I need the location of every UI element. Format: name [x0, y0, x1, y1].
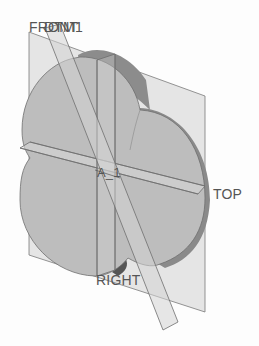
axis-a1-label[interactable]: A_1 — [97, 166, 121, 179]
top-datum-label[interactable]: TOP — [213, 187, 242, 201]
right-datum-label[interactable]: RIGHT — [96, 273, 141, 287]
cad-3d-viewport[interactable]: FRONT DTM1 A_1 TOP RIGHT — [0, 0, 259, 346]
dtm1-datum-label[interactable]: DTM1 — [44, 20, 83, 34]
model-graphics[interactable] — [0, 0, 259, 346]
